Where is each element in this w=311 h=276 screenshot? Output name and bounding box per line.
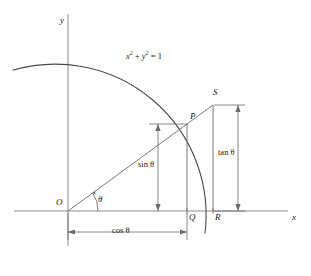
- point-label-S: S: [213, 88, 218, 97]
- axes-group: [14, 14, 288, 246]
- measure-cos-arrowhead-right: [180, 229, 187, 234]
- y-axis-label: y: [60, 16, 64, 25]
- point-label-P: P: [190, 112, 196, 121]
- diagram-canvas: [0, 0, 311, 276]
- circle-equation-label: x2 + y2 = 1: [126, 50, 162, 60]
- measure-label-cos: cos θ: [112, 226, 130, 235]
- point-label-R: R: [215, 213, 221, 222]
- measure-label-tan: tan θ: [218, 148, 235, 157]
- measure-tan-arrowhead-up: [235, 105, 240, 112]
- point-label-Q: Q: [189, 213, 196, 222]
- equation-plus: +: [133, 51, 142, 61]
- trig-unit-circle-figure: y x x2 + y2 = 1 O P Q R S θ sin θ cos θ …: [0, 0, 311, 276]
- x-axis-label: x: [292, 213, 296, 222]
- measure-tan-arrowhead-down: [235, 204, 240, 211]
- point-label-O: O: [56, 198, 63, 207]
- equation-one: 1: [158, 51, 162, 61]
- unit-circle-arc: [13, 64, 207, 233]
- measure-sin-arrowhead-down: [155, 204, 160, 211]
- unit-circle-arc-group: [13, 64, 207, 233]
- measure-label-sin: sin θ: [138, 160, 154, 169]
- equation-equals: =: [149, 51, 158, 61]
- measure-cos-arrowhead-left: [68, 229, 75, 234]
- measure-sin-arrowhead-up: [155, 124, 160, 131]
- angle-theta-label: θ: [98, 195, 102, 204]
- measure-tan-group: [214, 105, 245, 211]
